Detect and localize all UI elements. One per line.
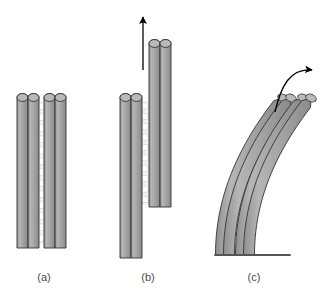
filament-right-outer: [160, 40, 171, 207]
panel-b: [120, 17, 171, 258]
filament-left-inner: [28, 94, 39, 248]
crossbridge-rung: [142, 103, 148, 109]
crossbridge-rung: [142, 176, 148, 182]
filament-cap-right-outer: [160, 40, 171, 48]
filament-left-outer: [120, 94, 131, 258]
crossbridge-rung: [142, 113, 148, 119]
filament-left-inner: [131, 94, 142, 258]
crossbridge-rung: [142, 155, 148, 161]
crossbridge-rung: [142, 144, 148, 150]
crossbridge-rung: [142, 124, 148, 130]
panel-c: [215, 70, 318, 255]
filament-cap-left-outer: [120, 94, 131, 102]
panel-label-a: (a): [37, 271, 50, 283]
filament-cap-right-inner: [44, 94, 55, 102]
filament-cap-right-inner: [149, 40, 160, 48]
panel-label-b: (b): [141, 271, 154, 283]
crossbridge-rung: [142, 165, 148, 171]
crossbridge-rung: [142, 186, 148, 192]
diagram-canvas: (a) (b) (c): [0, 0, 328, 301]
filament-right-inner: [44, 94, 55, 248]
crossbridge-rung: [142, 196, 148, 202]
filament-cap-right-outer: [55, 94, 66, 102]
filament-right-inner: [149, 40, 160, 207]
filament-cap-left-outer: [17, 94, 28, 102]
filament-right-outer: [55, 94, 66, 248]
panel-a: [17, 94, 66, 248]
filament-cap-left-inner: [28, 94, 39, 102]
filament-sliding-figure: (a) (b) (c): [0, 0, 328, 301]
filament-left-outer: [17, 94, 28, 248]
filament-cap-left-inner: [131, 94, 142, 102]
panel-label-c: (c): [248, 271, 261, 283]
crossbridge-rung: [142, 134, 148, 140]
